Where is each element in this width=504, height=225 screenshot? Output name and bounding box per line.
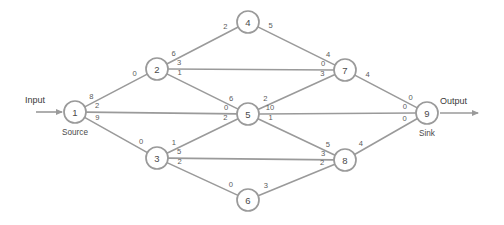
node-role-label-1: Source <box>62 128 88 137</box>
edge-label-tail-1-5: 2 <box>95 101 99 110</box>
node-label-2: 2 <box>154 64 159 75</box>
edge-line <box>355 118 418 154</box>
output-label: Output <box>440 96 468 106</box>
edge-line <box>168 69 334 70</box>
nodes-layer: 1Source23456789Sink <box>62 11 438 211</box>
edge-label-tail-5-9: 10 <box>266 103 274 112</box>
edge-line <box>85 117 148 152</box>
edge-1-3 <box>85 117 148 152</box>
edge-label-head-2-5: 6 <box>229 94 233 103</box>
node-label-9: 9 <box>424 108 429 119</box>
node-3[interactable]: 3 <box>146 147 168 169</box>
network-flow-diagram: 1Source23456789Sink 80209062301612532054… <box>0 0 504 225</box>
edge-label-head-1-2: 0 <box>132 69 136 78</box>
edge-label-head-3-8: 3 <box>321 149 325 158</box>
edge-8-9 <box>355 118 418 154</box>
node-label-5: 5 <box>245 109 250 120</box>
node-8[interactable]: 8 <box>334 149 356 171</box>
node-label-3: 3 <box>154 153 159 164</box>
edge-line <box>258 164 335 196</box>
node-label-7: 7 <box>342 65 347 76</box>
node-label-8: 8 <box>342 155 347 166</box>
edge-label-head-3-6: 0 <box>229 180 233 189</box>
edge-label-tail-2-4: 6 <box>171 49 175 58</box>
node-label-6: 6 <box>245 195 250 206</box>
node-label-4: 4 <box>245 17 250 28</box>
node-2[interactable]: 2 <box>146 58 168 80</box>
edge-label-head-1-3: 0 <box>139 137 143 146</box>
edge-label-head-8-9: 0 <box>403 114 407 123</box>
edge-1-5 <box>86 112 237 114</box>
edge-5-9 <box>259 113 416 114</box>
edge-label-tail-1-2: 8 <box>89 92 93 101</box>
node-9[interactable]: 9Sink <box>416 102 438 138</box>
edge-3-8 <box>168 158 334 160</box>
edge-line <box>259 113 416 114</box>
edge-line <box>86 112 237 114</box>
edge-label-tail-1-3: 9 <box>95 113 99 122</box>
edge-2-7 <box>168 69 334 70</box>
edge-label-tail-7-9: 4 <box>365 70 369 79</box>
edge-label-head-5-7: 3 <box>320 69 324 78</box>
edge-label-head-2-7: 0 <box>321 59 325 68</box>
edge-line <box>167 163 238 196</box>
edge-label-head-2-4: 2 <box>223 22 227 31</box>
node-role-label-9: Sink <box>419 129 436 138</box>
edge-6-8 <box>258 164 335 196</box>
edge-line <box>168 158 334 160</box>
edge-label-tail-3-6: 2 <box>178 157 182 166</box>
network-graph-canvas: 1Source23456789Sink 80209062301612532054… <box>0 0 504 225</box>
node-5[interactable]: 5 <box>237 103 259 125</box>
edge-label-tail-8-9: 4 <box>359 139 363 148</box>
edge-label-head-6-8: 2 <box>320 158 324 167</box>
edge-label-tail-3-8: 5 <box>177 147 181 156</box>
node-label-1: 1 <box>72 107 77 118</box>
edge-7-9 <box>355 75 418 108</box>
input-label: Input <box>25 95 46 105</box>
node-4[interactable]: 4 <box>237 11 259 33</box>
edge-label-tail-2-7: 3 <box>177 58 181 67</box>
edge-label-head-7-9: 0 <box>408 93 412 102</box>
edge-label-head-4-7: 4 <box>326 50 330 59</box>
edge-label-tail-4-7: 5 <box>268 21 272 30</box>
edge-label-head-1-5: 0 <box>224 103 228 112</box>
node-1[interactable]: 1Source <box>62 101 88 137</box>
edge-label-head-5-9: 0 <box>403 102 407 111</box>
edge-label-tail-3-5: 1 <box>172 138 176 147</box>
edge-line <box>355 75 418 108</box>
edge-label-head-5-8: 5 <box>326 140 330 149</box>
node-7[interactable]: 7 <box>334 59 356 81</box>
edge-3-6 <box>167 163 238 196</box>
edge-label-head-3-5: 2 <box>223 113 227 122</box>
edge-label-tail-6-8: 3 <box>264 181 268 190</box>
edge-label-tail-5-8: 1 <box>269 113 273 122</box>
node-6[interactable]: 6 <box>237 189 259 211</box>
edge-label-tail-2-5: 1 <box>177 68 181 77</box>
